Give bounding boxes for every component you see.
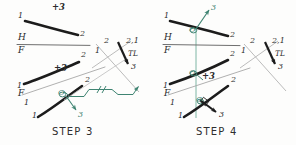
step3-front-line-1-2 <box>24 62 79 84</box>
step3-aux-line-end-label: 2 <box>85 76 90 84</box>
step3-tl-label: TL <box>128 50 138 58</box>
step3-edge-two-label: 2 <box>104 37 109 45</box>
step3-front-plus-three-label: +3 <box>54 64 67 73</box>
drawing-canvas: 1 2 +3 H F 1 2 +3 F 1 1 2 O 3 2 1 2,1 TL… <box>0 0 296 145</box>
step3-f-sub-one-label: 1 <box>24 99 29 107</box>
step4-h-label: H <box>164 33 172 42</box>
step3-panel <box>17 21 139 117</box>
step3-edge-one-label: 1 <box>95 47 100 55</box>
step4-aux-line-end-label: 2 <box>231 76 236 84</box>
step3-tl-top-label: 2,1 <box>126 37 139 45</box>
step4-f-label: F <box>164 46 170 55</box>
step4-panel <box>163 10 286 118</box>
step3-top-plus-three-label: +3 <box>52 3 65 12</box>
step3-front-line-end-label: 2 <box>81 51 86 59</box>
step3-f-label: F <box>18 46 24 55</box>
step4-step-label: STEP 4 <box>196 126 238 137</box>
step4-tl-segment <box>265 42 275 64</box>
step3-f-small-label: F <box>18 89 24 98</box>
step4-tl-end-label: 3 <box>278 63 283 71</box>
step4-hf-fold-line <box>163 45 240 46</box>
geometry-sketch <box>0 0 296 145</box>
step4-tl-top-label: 2,1 <box>272 37 285 45</box>
step4-front-line-1-2 <box>170 60 228 84</box>
step4-front-point-o-label: O <box>189 69 196 77</box>
step4-edge-two-label: 2 <box>250 37 255 45</box>
step4-top-point-o-label: O <box>189 26 196 34</box>
step4-front-plus-three-label: +3 <box>202 72 215 81</box>
step4-front-line-end-label: 2 <box>230 50 235 58</box>
step3-top-line-start-label: 1 <box>18 12 23 20</box>
step3-aux-line-start-label: 1 <box>32 112 37 120</box>
step4-f-small-label: F <box>164 89 170 98</box>
step4-f-sub-one-label: 1 <box>170 99 175 107</box>
step4-top-point-three-label: 3 <box>211 4 216 12</box>
step3-aux-point-three-label: 3 <box>78 111 83 119</box>
step4-top-line-1-2 <box>170 21 228 36</box>
step4-tl-label: TL <box>275 50 285 58</box>
step3-o-to-three-line <box>66 96 76 110</box>
step3-step-label: STEP 3 <box>52 126 94 137</box>
step3-h-label: H <box>18 33 26 42</box>
step4-top-o-to-three <box>196 10 209 29</box>
step4-edge-one-label: 1 <box>241 47 246 55</box>
step4-top-line-start-label: 1 <box>164 12 169 20</box>
step3-top-line-1-2 <box>25 21 78 35</box>
step3-aux-point-o-label: O <box>58 89 65 97</box>
step4-aux-point-three-label: 3 <box>219 111 224 119</box>
step3-top-line-end-label: 2 <box>80 30 85 38</box>
step3-tl-end-label: 3 <box>131 63 136 71</box>
step4-aux-point-o-label: O <box>196 96 203 104</box>
step4-top-line-end-label: 2 <box>230 31 235 39</box>
step4-aux-line-start-label: 1 <box>178 112 183 120</box>
step3-hf-fold-line <box>17 45 90 46</box>
